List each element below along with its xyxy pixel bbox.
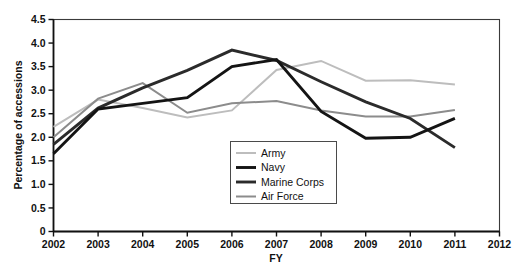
chart-legend: ArmyNavyMarine CorpsAir Force <box>231 142 337 204</box>
x-tick-label: 2006 <box>220 238 244 250</box>
x-tick-label: 2002 <box>42 238 66 250</box>
x-tick-label: 2010 <box>399 238 423 250</box>
x-tick-label: 2012 <box>488 238 512 250</box>
series-line-marine-corps <box>54 50 455 148</box>
x-tick-label: 2008 <box>309 238 333 250</box>
y-tick-label: 1.5 <box>31 154 46 166</box>
x-tick-label: 2009 <box>354 238 378 250</box>
x-tick-label: 2004 <box>131 238 155 250</box>
series-lines <box>54 50 455 154</box>
series-line-navy <box>54 60 455 154</box>
y-axis-title: Percentage of accessions <box>12 60 24 189</box>
y-tick-label: 3.5 <box>31 60 46 72</box>
y-tick-label: 1.0 <box>31 178 46 190</box>
x-axis-title: FY <box>269 252 282 264</box>
y-tick-label: 0.5 <box>31 202 46 214</box>
line-chart: 00.51.01.52.02.53.03.54.04.5 20022003200… <box>0 0 522 273</box>
legend-label-navy: Navy <box>261 161 286 173</box>
x-tick-label: 2007 <box>265 238 289 250</box>
legend-label-army: Army <box>261 147 286 159</box>
y-tick-label: 3.0 <box>31 84 46 96</box>
y-tick-label: 4.5 <box>31 13 46 25</box>
y-tick-label: 0 <box>40 225 46 237</box>
x-tick-label: 2005 <box>176 238 200 250</box>
y-tick-label: 4.0 <box>31 37 46 49</box>
x-tick-label: 2011 <box>444 238 467 250</box>
y-tick-label: 2.0 <box>31 131 46 143</box>
legend-label-air-force: Air Force <box>261 190 304 202</box>
y-tick-label: 2.5 <box>31 107 46 119</box>
x-tick-label: 2003 <box>86 238 110 250</box>
legend-label-marine-corps: Marine Corps <box>261 176 324 188</box>
x-axis-tick-labels: 2002200320042005200620072008200920102011… <box>42 238 512 250</box>
y-axis-tick-labels: 00.51.01.52.02.53.03.54.04.5 <box>31 13 46 237</box>
chart-figure: 00.51.01.52.02.53.03.54.04.5 20022003200… <box>0 0 522 273</box>
